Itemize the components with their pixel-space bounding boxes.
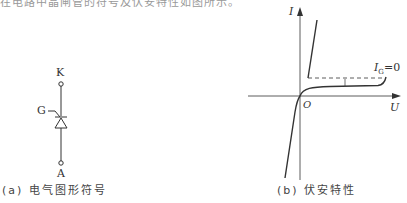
gate-current-value: =0 [384,61,400,74]
x-axis-arrow-icon [392,93,401,99]
gate-current-label: IG=0 [374,61,400,76]
y-axis-label: I [289,5,293,18]
cathode-terminal-icon [59,82,63,86]
thyristor-symbol [48,82,67,165]
anode-label: A [57,167,65,180]
gate-label: G [37,104,46,117]
vi-characteristic [248,7,401,180]
origin-label: O [303,99,311,110]
y-axis-arrow-icon [297,7,303,16]
caption-a: (a) 电气图形符号 [2,181,107,197]
cathode-label: K [56,66,64,79]
anode-terminal-icon [59,161,63,165]
caption-b: (b) 伏安特性 [277,181,356,197]
x-axis-label: U [390,101,399,114]
